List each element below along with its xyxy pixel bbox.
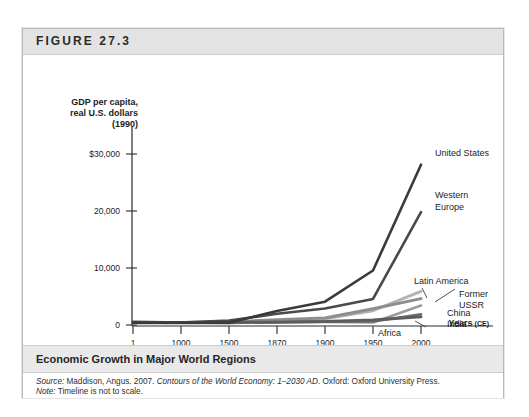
y-axis-title-line-2: real U.S. dollars	[70, 108, 138, 118]
source-note: Note: Timeline is not to scale.	[36, 387, 143, 396]
line-chart-svg: GDP per capita, real U.S. dollars (1990)…	[23, 55, 505, 345]
x-tick-label-1: 1	[131, 338, 136, 345]
series-label-china: China	[447, 308, 471, 318]
y-axis-title-line-1: GDP per capita,	[71, 97, 138, 107]
source-prefix: Source:	[36, 377, 64, 386]
x-axis-title-group: Years(CE)	[449, 318, 489, 328]
figure-source-band: Source: Maddison, Angus. 2007. Contours …	[23, 373, 503, 398]
y-tick-label-30000: $30,000	[89, 149, 120, 159]
x-tick-label-1900: 1900	[316, 338, 335, 345]
data-series-group	[133, 165, 421, 323]
source-work-title: Contours of the World Economy: 1–2030 AD	[157, 377, 318, 386]
series-label-western-europe-line2: Europe	[435, 202, 464, 212]
note-body: Timeline is not to scale.	[56, 387, 143, 396]
x-tick-label-1870: 1870	[268, 338, 287, 345]
series-label-western-europe-line1: Western	[435, 190, 468, 200]
figure-caption-band: Economic Growth in Major World Regions	[23, 345, 503, 373]
y-tick-label-20000: 20,000	[94, 206, 120, 216]
figure-header-band: FIGURE 27.3	[23, 29, 503, 55]
series-label-latin-america: Latin America	[414, 276, 469, 286]
series-label-united-states: United States	[435, 148, 490, 158]
x-tick-label-2000: 2000	[412, 338, 431, 345]
series-line-united-states	[133, 165, 421, 323]
figure-container: FIGURE 27.3 GDP per capita, real U.S. do…	[22, 28, 504, 398]
y-axis-title-line-3: (1990)	[112, 119, 138, 129]
x-tick-label-1000: 1000	[172, 338, 191, 345]
y-tick-label-10000: 10,000	[94, 263, 120, 273]
source-publisher: . Oxford: Oxford University Press.	[318, 377, 440, 386]
figure-number-label: FIGURE 27.3	[36, 34, 131, 48]
x-axis-era-suffix: (CE)	[475, 320, 489, 327]
x-tick-label-1950: 1950	[364, 338, 383, 345]
chart-plot-area: GDP per capita, real U.S. dollars (1990)…	[23, 55, 503, 345]
x-tick-label-1500: 1500	[220, 338, 239, 345]
source-citation: Source: Maddison, Angus. 2007. Contours …	[36, 377, 440, 386]
figure-caption: Economic Growth in Major World Regions	[36, 353, 256, 365]
source-author: Maddison, Angus. 2007.	[64, 377, 156, 386]
series-line-western-europe	[133, 212, 421, 322]
series-label-former-ussr-line1: Former	[459, 289, 488, 299]
series-label-africa: Africa	[378, 328, 401, 338]
x-axis-title: Years	[449, 318, 473, 328]
note-prefix: Note:	[36, 387, 56, 396]
y-tick-label-0: 0	[115, 320, 120, 330]
